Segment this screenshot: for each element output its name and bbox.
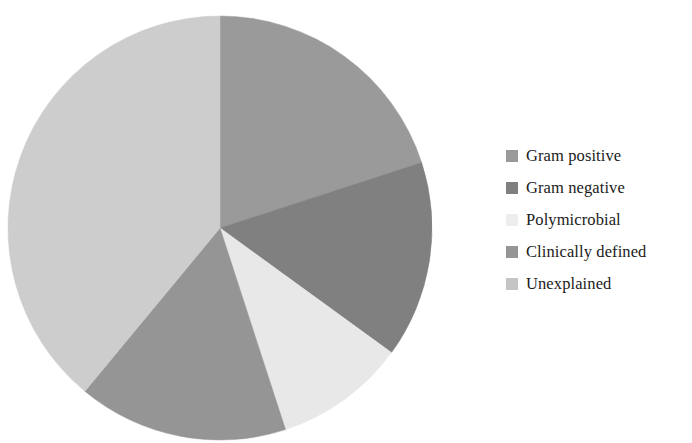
legend-swatch-gram-negative: [506, 182, 518, 194]
chart-legend: Gram positive Gram negative Polymicrobia…: [506, 140, 686, 300]
legend-item-gram-negative[interactable]: Gram negative: [506, 172, 686, 204]
legend-swatch-gram-positive: [506, 150, 518, 162]
legend-item-polymicrobial[interactable]: Polymicrobial: [506, 204, 686, 236]
legend-label-polymicrobial: Polymicrobial: [526, 212, 621, 229]
pie-chart-figure: Gram positive Gram negative Polymicrobia…: [0, 0, 692, 443]
legend-item-unexplained[interactable]: Unexplained: [506, 268, 686, 300]
pie-slice-group: [8, 16, 432, 440]
legend-swatch-polymicrobial: [506, 214, 518, 226]
legend-item-gram-positive[interactable]: Gram positive: [506, 140, 686, 172]
legend-label-unexplained: Unexplained: [526, 276, 611, 293]
legend-swatch-clinically-defined: [506, 246, 518, 258]
pie-chart-plot-area: [0, 0, 460, 443]
legend-label-gram-negative: Gram negative: [526, 180, 625, 197]
pie-chart-svg: [0, 0, 460, 443]
legend-swatch-unexplained: [506, 278, 518, 290]
legend-label-gram-positive: Gram positive: [526, 148, 621, 165]
legend-item-clinically-defined[interactable]: Clinically defined: [506, 236, 686, 268]
legend-label-clinically-defined: Clinically defined: [526, 244, 646, 261]
